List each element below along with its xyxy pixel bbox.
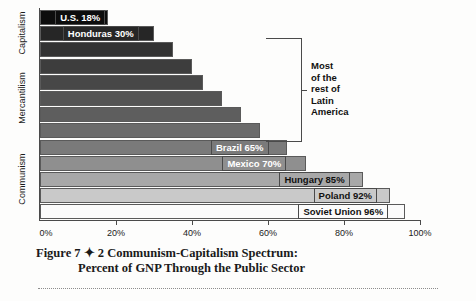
bar-row [40, 91, 420, 106]
y-axis-group-capitalism: Capitalism [17, 9, 27, 56]
bar-row: Brazil 65% [40, 140, 420, 155]
x-axis-tick-label: 80% [335, 228, 353, 238]
bar-row: Poland 92% [40, 188, 420, 203]
caption-line-1: Figure 7 ✦ 2 Communism-Capitalism Spectr… [36, 246, 298, 260]
x-axis-tick [192, 220, 193, 225]
x-axis-tick [420, 220, 421, 225]
x-axis-tick-label: 0% [39, 228, 52, 238]
bar [40, 42, 173, 57]
callout-line-5: America [311, 106, 349, 117]
bar-row: U.S. 18% [40, 10, 420, 25]
bar-row: Hungary 85% [40, 172, 420, 187]
bar-value-label: Soviet Union 96% [298, 204, 388, 219]
footer-divider [38, 288, 438, 289]
bar-row [40, 75, 420, 90]
bar-value-label: Honduras 30% [63, 26, 139, 41]
y-axis-group-mercantilism: Mercantilism [17, 58, 27, 138]
bar [40, 59, 192, 74]
bar-row: Honduras 30% [40, 26, 420, 41]
bar [40, 107, 241, 122]
callout-line-4: Latin [311, 95, 334, 106]
x-axis-tick [268, 220, 269, 225]
x-axis-tick-label: 60% [259, 228, 277, 238]
x-axis-line [39, 220, 421, 221]
bar-value-label: U.S. 18% [55, 10, 105, 25]
callout-line-3: rest of [311, 83, 340, 94]
x-axis-tick-label: 100% [408, 228, 431, 238]
bar-row [40, 123, 420, 138]
bar [40, 123, 260, 138]
figure-caption: Figure 7 ✦ 2 Communism-Capitalism Spectr… [36, 246, 456, 276]
bar-value-label: Poland 92% [314, 188, 377, 203]
bar-value-label: Brazil 65% [211, 140, 269, 155]
x-axis-tick-label: 20% [107, 228, 125, 238]
caption-line-2: Percent of GNP Through the Public Sector [36, 261, 456, 276]
bar [40, 91, 222, 106]
figure-container: Capitalism Mercantilism Communism U.S. 1… [0, 0, 476, 301]
bar-value-label: Mexico 70% [222, 156, 286, 171]
x-axis-tick [344, 220, 345, 225]
y-axis-group-communism: Communism [17, 139, 27, 219]
bar-row: Mexico 70% [40, 156, 420, 171]
bar-value-label: Hungary 85% [279, 172, 349, 187]
bracket-pointer [302, 90, 307, 91]
latin-america-callout: Most of the rest of Latin America [311, 60, 349, 118]
bar-row [40, 42, 420, 57]
plot-area: U.S. 18%Honduras 30%Brazil 65%Mexico 70%… [40, 8, 420, 220]
callout-line-2: of the [311, 72, 337, 83]
x-axis-tick [116, 220, 117, 225]
callout-line-1: Most [311, 60, 333, 71]
bar-row [40, 59, 420, 74]
x-axis-tick-label: 40% [183, 228, 201, 238]
bar-row: Soviet Union 96% [40, 204, 420, 219]
bar [40, 75, 203, 90]
bar-row [40, 107, 420, 122]
latin-america-bracket [266, 38, 302, 142]
